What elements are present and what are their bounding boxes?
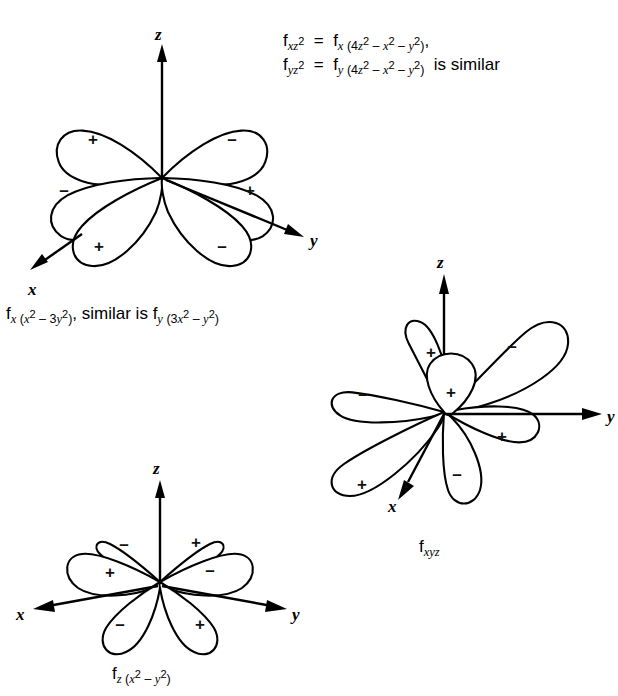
- sign-label: –: [119, 535, 128, 554]
- sign-label: +: [497, 427, 507, 446]
- orbital-diagram-f-x-x2-3y2: z y x + – – + + –: [0, 20, 340, 310]
- sign-label: +: [357, 475, 367, 494]
- axis-z: z: [154, 25, 167, 178]
- sign-label: –: [205, 561, 214, 580]
- sign-label: –: [227, 130, 236, 149]
- svg-text:y: y: [308, 231, 318, 250]
- sign-label: +: [446, 383, 456, 402]
- sign-label: +: [105, 563, 115, 582]
- sign-label: –: [217, 237, 226, 256]
- svg-text:z: z: [154, 25, 162, 44]
- orbital-diagram-f-z-x2-y2: z x y – + + – – +: [0, 450, 300, 670]
- sign-label: +: [245, 181, 255, 200]
- sign-label: +: [195, 615, 205, 634]
- sign-label: –: [59, 181, 68, 200]
- sign-label: –: [358, 385, 367, 404]
- top-partial-orbital-shape: [330, 0, 520, 12]
- svg-text:x: x: [15, 605, 25, 624]
- orbital-diagram-f-xyz: z y x + – – + + – +: [330, 240, 618, 540]
- caption-f-x-x2-3y2: fx (x2 – 3y2), similar is fy (3x2 – y2) …: [6, 303, 219, 327]
- sign-label: +: [94, 237, 104, 256]
- svg-text:z: z: [152, 459, 160, 478]
- sign-label: –: [507, 337, 516, 356]
- caption-f-z-x2-y2: fz (x2 – y2) fz (x2 – y2): [112, 663, 171, 687]
- svg-text:y: y: [605, 407, 615, 426]
- figure-canvas: fxz2 = fx (4z2 – x2 – y2), fxz2 = fx (4z…: [0, 0, 618, 696]
- svg-text:x: x: [387, 497, 397, 516]
- lobe-lower-left-long: [332, 412, 445, 496]
- sign-label: +: [426, 343, 436, 362]
- svg-text:y: y: [290, 605, 300, 624]
- sign-label: –: [115, 615, 124, 634]
- svg-text:z: z: [436, 253, 444, 272]
- axis-z: z: [152, 459, 165, 582]
- sign-label: +: [88, 130, 98, 149]
- caption-f-xyz: fxyz fxyz: [419, 536, 440, 560]
- svg-text:x: x: [27, 280, 37, 299]
- sign-label: +: [191, 533, 201, 552]
- sign-label: –: [452, 465, 461, 484]
